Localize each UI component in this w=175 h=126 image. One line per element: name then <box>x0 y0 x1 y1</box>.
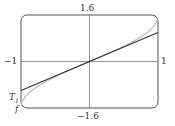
x-max-label: 1 <box>161 57 167 66</box>
t1-subscript: 1 <box>15 97 19 104</box>
t1-annotation: T1 <box>9 93 19 104</box>
plot-svg <box>0 0 175 126</box>
f-annotation: f <box>15 105 18 114</box>
x-min-label: −1 <box>4 57 17 66</box>
y-max-label: 1.6 <box>80 4 94 13</box>
y-min-label: −1.6 <box>77 112 99 121</box>
